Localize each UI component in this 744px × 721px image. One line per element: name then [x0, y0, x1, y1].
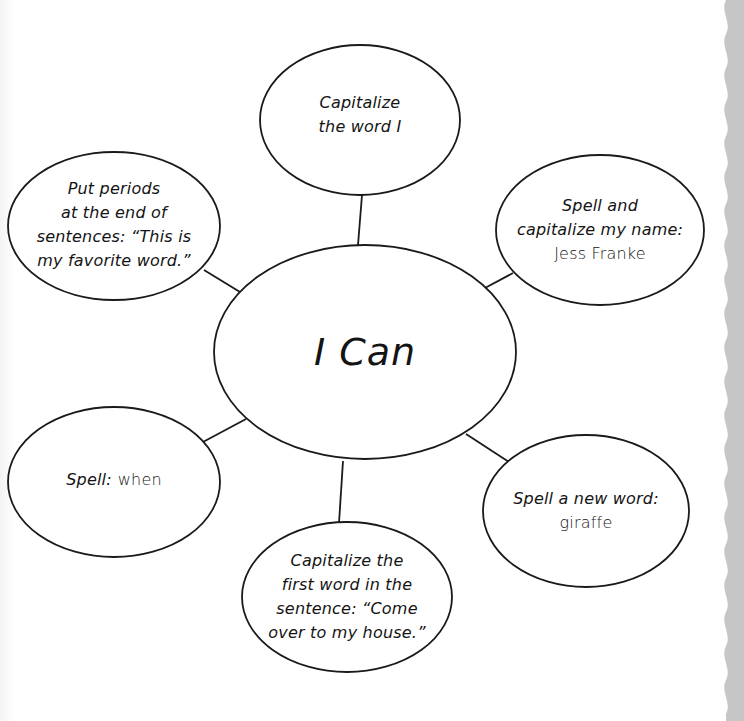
- bubble-line: sentence: “Come: [276, 597, 417, 621]
- bubble-put-periods: Put periods at the end of sentences: “Th…: [14, 160, 214, 290]
- bubble-spell-name: Spell and capitalize my name: Jess Frank…: [500, 175, 700, 285]
- bubble-capitalize-first-word: Capitalize the first word in the sentenc…: [245, 532, 449, 662]
- bubble-capitalize-i: Capitalize the word I: [270, 60, 450, 170]
- bubble-spell-when: Spell: when: [14, 430, 214, 530]
- bubble-line: the word I: [319, 115, 402, 139]
- connector-line-bottom: [339, 461, 343, 523]
- bubble-line: first word in the: [282, 573, 412, 597]
- center-bubble-label: I Can: [214, 245, 516, 459]
- bubble-line: sentences: “This is: [37, 225, 192, 249]
- bubble-line: Spell:: [66, 468, 112, 492]
- bubble-line: Spell a new word:: [513, 487, 659, 511]
- bubble-line: my favorite word.”: [37, 249, 191, 273]
- bubble-line: Capitalize: [320, 91, 401, 115]
- bubble-line: capitalize my name:: [517, 218, 683, 242]
- bubble-line: Capitalize the: [291, 549, 404, 573]
- connector-line-top: [358, 195, 362, 245]
- bubble-line: Spell and: [562, 194, 638, 218]
- bubble-line: Put periods: [68, 177, 161, 201]
- bubble-line: at the end of: [61, 201, 167, 225]
- wavy-page-edge: [724, 0, 744, 721]
- center-title: I Can: [314, 330, 416, 374]
- bubble-example: when: [118, 468, 162, 492]
- bubble-spell-new-word: Spell a new word: giraffe: [486, 464, 686, 558]
- bubble-example: giraffe: [560, 511, 613, 535]
- bubble-line: over to my house.”: [268, 621, 425, 645]
- bubble-example: Jess Franke: [554, 242, 646, 266]
